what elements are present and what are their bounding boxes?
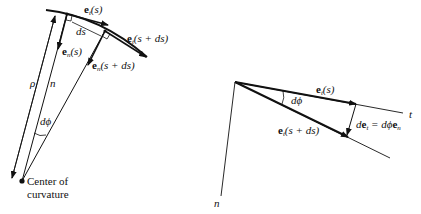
label-center-line2: curvature [27, 188, 69, 200]
en-s-vector [58, 14, 67, 49]
label-det-equation: det = dϕen [356, 118, 401, 132]
label-t: t [409, 108, 413, 120]
label-center-line1: Center of [27, 175, 69, 187]
label-et-s-ds-right: et(s + ds) [278, 124, 319, 138]
dphi-arc-right [282, 91, 284, 104]
det-vector [347, 104, 356, 135]
label-et-s-ds: et(s + ds) [127, 32, 168, 46]
label-rho: ρ [29, 77, 35, 89]
label-et-s-right: et(s) [316, 83, 335, 97]
left-diagram: et(s) et(s + ds) en(s) en(s + ds) ds ρ n… [12, 3, 168, 200]
right-diagram: et(s) et(s + ds) dϕ det = dϕen t n [214, 82, 413, 209]
label-en-s-ds: en(s + ds) [92, 59, 135, 73]
label-et-s: et(s) [84, 3, 103, 17]
curvature-diagram: et(s) et(s + ds) en(s) en(s + ds) ds ρ n… [0, 0, 421, 214]
label-dphi: dϕ [40, 115, 52, 127]
n-axis [221, 82, 235, 196]
label-en-s: en(s) [62, 45, 82, 59]
label-dphi-right: dϕ [291, 94, 303, 106]
center-of-curvature-dot [19, 178, 24, 183]
label-n-right: n [214, 197, 220, 209]
label-ds: ds [76, 25, 86, 37]
dphi-arc [34, 133, 46, 136]
label-n: n [50, 77, 56, 89]
tangent-et-s [67, 14, 108, 25]
